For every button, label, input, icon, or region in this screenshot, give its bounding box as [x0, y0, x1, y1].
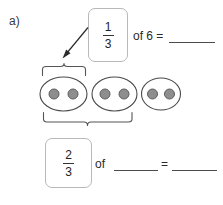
fraction-numerator: 2 [65, 149, 72, 162]
bottom-whole-blank[interactable] [114, 170, 158, 171]
worksheet-page: a) 1 3 of 6 = [0, 0, 223, 205]
fraction-bar [63, 163, 74, 164]
dot [148, 89, 158, 99]
dot [165, 89, 175, 99]
fraction-two-thirds: 2 3 [63, 149, 74, 178]
dot [119, 89, 129, 99]
fraction-denominator: 3 [65, 165, 72, 178]
group-3 [142, 78, 181, 110]
dot [49, 89, 59, 99]
top-brace [43, 64, 86, 76]
bottom-equation-equals-text: = [161, 157, 168, 171]
group-2 [92, 77, 137, 111]
dot [68, 89, 78, 99]
bottom-answer-blank[interactable] [172, 170, 217, 171]
bottom-equation-of-text: of [95, 157, 105, 171]
group-model-diagram [0, 0, 223, 205]
bottom-brace [44, 113, 133, 126]
arrow-to-group-icon [63, 28, 89, 59]
fraction-box-two-thirds: 2 3 [45, 138, 92, 188]
dot [100, 89, 110, 99]
group-1 [40, 77, 87, 111]
